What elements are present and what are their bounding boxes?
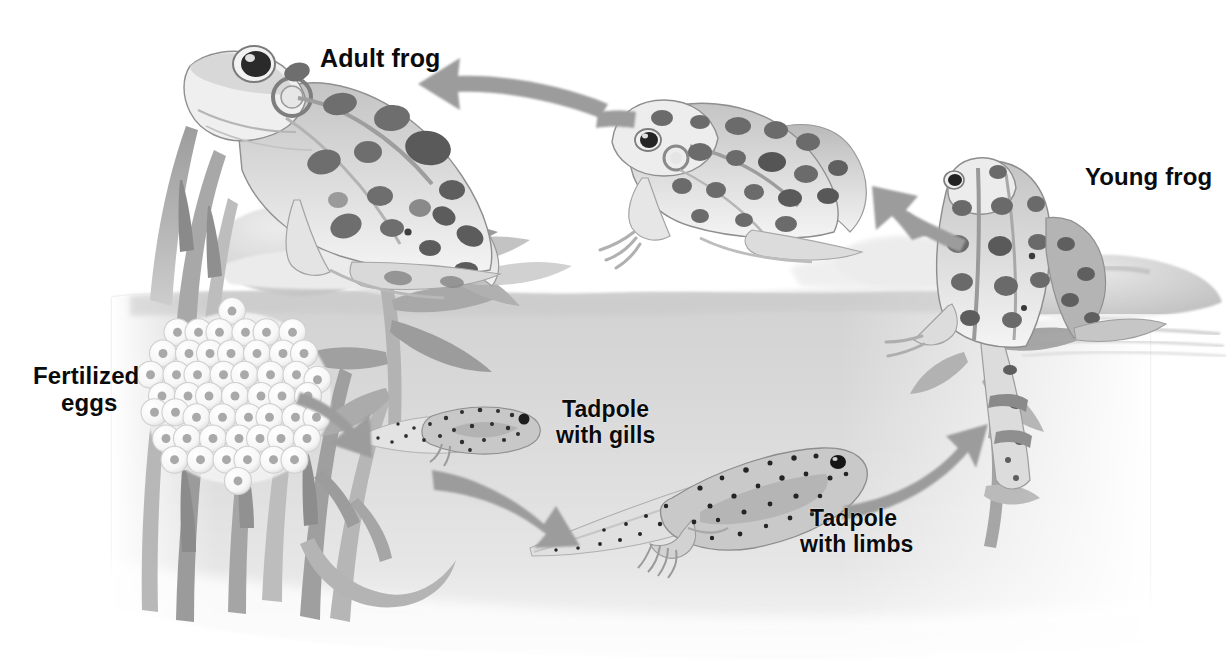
label-fertilized-eggs-line2: eggs [33, 390, 117, 417]
arrow-middle-to-adult [418, 58, 636, 128]
label-young-frog: Young frog [1085, 164, 1212, 191]
label-tadpole-gills-line1: Tadpole [556, 397, 649, 423]
label-tadpole-limbs-line1: Tadpole [800, 506, 897, 532]
frog-life-cycle-figure: Adult frog Young frog Fertilizedeggs Tad… [0, 0, 1229, 663]
label-tadpole-limbs-line2: with limbs [800, 531, 913, 557]
label-tadpole-gills-line2: with gills [556, 422, 655, 448]
life-cycle-illustration [0, 0, 1229, 663]
label-tadpole-with-limbs: Tadpolewith limbs [800, 506, 913, 558]
label-tadpole-with-gills: Tadpolewith gills [556, 397, 655, 449]
middle-frog-illustration [600, 100, 866, 268]
label-fertilized-eggs-line1: Fertilized [33, 362, 139, 389]
label-adult-frog: Adult frog [320, 44, 440, 72]
label-fertilized-eggs: Fertilizedeggs [33, 363, 139, 417]
